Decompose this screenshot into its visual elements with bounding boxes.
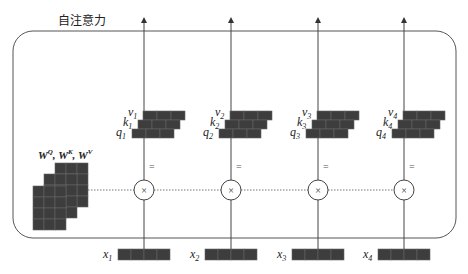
equals-sign: = [409,161,415,172]
equals-sign: = [323,161,329,172]
v-vector [230,111,272,120]
x-input-vector [292,249,344,260]
q-vector [306,129,348,138]
multiply-icon: × [315,185,321,196]
k-vector [138,120,180,129]
equals-sign: = [236,161,242,172]
v-vector [143,111,185,120]
equals-sign: = [149,161,155,172]
multiply-icon: × [228,185,234,196]
column-3: ×= [292,20,359,260]
q-label-4: q4 [376,126,386,141]
multiply-icon: × [141,185,147,196]
k-vector [225,120,267,129]
q-vector [219,129,261,138]
wq-matrix [33,186,66,230]
column-2: ×= [205,20,272,260]
k-vector [398,120,440,129]
x-label-1: x1 [103,248,112,263]
x-label-4: x4 [363,248,372,263]
q-label-1: q1 [116,126,126,141]
column-4: ×= [378,20,445,260]
x-input-vector [205,249,257,260]
k-vector [312,120,354,129]
x-input-vector [378,249,430,260]
x-label-2: x2 [190,248,199,263]
q-label-2: q2 [203,126,213,141]
x-label-3: x3 [277,248,286,263]
weight-matrices-stack [33,163,88,230]
multiply-icon: × [401,185,407,196]
x-input-vector [118,249,170,260]
weights-label: WQ, WK, WV [38,148,92,161]
self-attention-diagram: ×=×=×=×= [0,0,468,274]
q-label-3: q3 [290,126,300,141]
column-1: ×= [118,20,185,260]
q-vector [132,129,174,138]
q-vector [392,129,434,138]
v-vector [403,111,445,120]
diagram-title: 自注意力 [58,11,106,28]
v-vector [317,111,359,120]
